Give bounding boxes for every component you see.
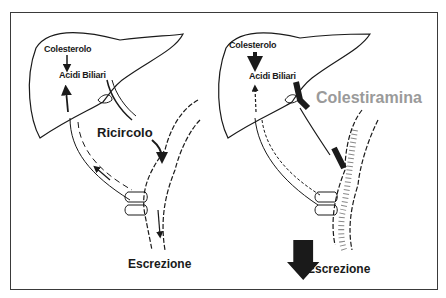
- left-intestine-arrow: [152, 140, 162, 158]
- left-cholesterol-label: Colesterolo: [44, 44, 91, 54]
- right-return-dashed-arrow: [255, 88, 256, 112]
- left-bile-acids-label: Acidi Biliari: [59, 70, 106, 80]
- right-bile-duct: [300, 108, 330, 155]
- right-panel: [219, 33, 378, 280]
- right-cholesterol-label: Colesterolo: [229, 40, 276, 50]
- left-intestine-down-arrow: [158, 210, 160, 235]
- left-return-arrow: [66, 90, 68, 112]
- right-bile-acids-label: Acidi Biliari: [249, 71, 296, 81]
- left-intestine-outer: [144, 100, 198, 250]
- left-excretion-label: Escrezione: [128, 257, 191, 271]
- right-bile-duct-thick: [296, 82, 308, 108]
- right-excretion-label: Escrezione: [307, 262, 370, 276]
- left-panel: [29, 32, 200, 250]
- cholestyramine-label: Colestiramina: [316, 89, 422, 107]
- right-intestine-inner: [350, 120, 378, 250]
- left-recirculation-label: Ricircolo: [97, 125, 153, 140]
- left-bile-duct: [107, 80, 132, 120]
- right-intestine-stipple: [341, 130, 355, 252]
- right-bile-duct-thick-2: [334, 148, 344, 168]
